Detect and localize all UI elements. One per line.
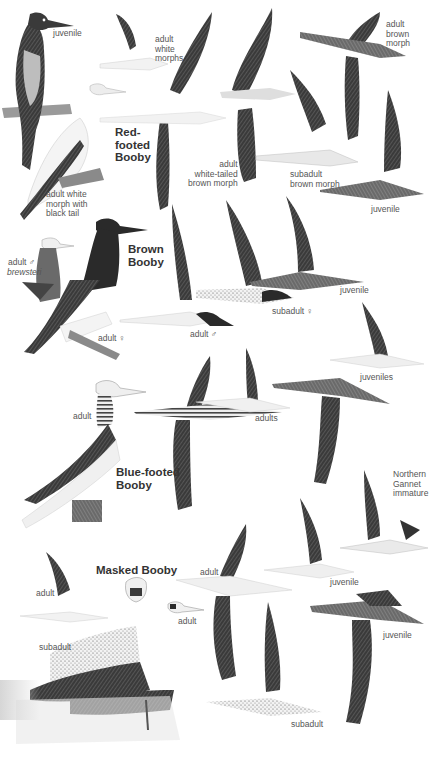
label-br-subadult-female: subadult ♀ bbox=[272, 307, 313, 317]
label-mb-adult-flying-center: adult bbox=[200, 568, 218, 578]
label-mb-adult-flying-left: adult bbox=[36, 589, 54, 599]
br-juvenile-flying-illustration bbox=[250, 196, 364, 290]
label-mb-juvenile-2: juvenile bbox=[383, 631, 412, 641]
label-br-brewsteri-subspecies: brewsteri bbox=[7, 268, 41, 278]
label-br-juvenile: juvenile bbox=[340, 286, 369, 296]
label-rf-adult-brown-morph: adult brown morph bbox=[386, 20, 410, 49]
label-rf-subadult-brown-morph: subadult brown morph bbox=[290, 170, 340, 189]
mb-juvenile-flying-1-illustration bbox=[264, 498, 354, 578]
species-title-brown-booby: Brown Booby bbox=[128, 243, 164, 268]
label-mb-subadult-perched: subadult bbox=[39, 643, 71, 653]
mb-adult-head-illustration bbox=[168, 602, 204, 613]
mb-adult-flying-left-illustration bbox=[20, 552, 108, 622]
label-mb-juvenile-1: juvenile bbox=[330, 578, 359, 588]
label-mb-subadult-flying: subadult bbox=[291, 720, 323, 730]
label-rf-juvenile-flying: juvenile bbox=[371, 205, 400, 215]
label-rf-white-morph-black-tail: adult white morph with black tail bbox=[46, 190, 88, 219]
label-mb-adult-head: adult bbox=[178, 617, 196, 627]
bf-adult-perched-illustration bbox=[22, 381, 146, 528]
field-guide-plate: juvenile adult white morphs Red- footed … bbox=[0, 0, 446, 761]
label-rf-adult-white-morphs: adult white morphs bbox=[155, 35, 183, 64]
species-title-masked-booby: Masked Booby bbox=[96, 564, 177, 577]
label-bf-adults: adults bbox=[255, 414, 278, 424]
br-subadult-female-flying-illustration bbox=[196, 200, 294, 304]
species-title-blue-footed-booby: Blue-footed Booby bbox=[116, 466, 180, 491]
label-northern-gannet-immature: Northern Gannet immature bbox=[393, 470, 428, 499]
label-br-adult-male-flying: adult ♂ bbox=[190, 330, 217, 340]
label-br-adult-female: adult ♀ bbox=[98, 334, 125, 344]
rf-subadult-brown-morph-illustration bbox=[256, 70, 358, 166]
page-edge-shadow bbox=[0, 680, 40, 720]
species-title-red-footed-booby: Red- footed Booby bbox=[115, 126, 151, 164]
label-rf-juvenile-perched: juvenile bbox=[53, 29, 82, 39]
mb-juvenile-flying-2-illustration bbox=[310, 590, 424, 724]
label-bf-adult-perched: adult bbox=[73, 412, 91, 422]
bf-juveniles-flying-illustration bbox=[272, 302, 424, 484]
label-bf-juveniles: juveniles bbox=[360, 373, 393, 383]
label-rf-white-tailed-brown-morph: adult white-tailed brown morph bbox=[188, 160, 238, 189]
mb-subadult-perched-illustration bbox=[16, 578, 180, 745]
